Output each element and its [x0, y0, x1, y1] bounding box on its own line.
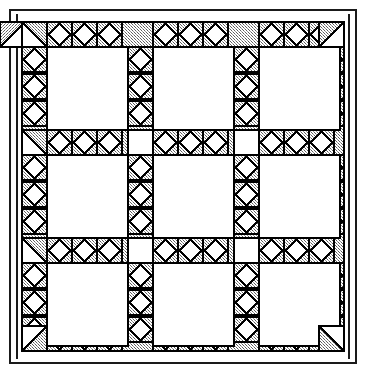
- quilt-pattern-figure: [0, 0, 366, 373]
- plain-block: [259, 155, 340, 238]
- sashing-band-top: [0, 22, 334, 47]
- plain-block: [47, 263, 128, 346]
- block-grid: [47, 47, 340, 346]
- corner-block-top-right: [319, 22, 344, 47]
- corner-block-top-left: [22, 22, 47, 47]
- sashing-band-row2: [22, 130, 334, 155]
- sashing-band-col1: [22, 47, 47, 342]
- plain-block: [153, 155, 234, 238]
- sashing-intersection-square: [128, 130, 153, 155]
- plain-block: [47, 47, 128, 130]
- plain-block: [153, 263, 234, 346]
- plain-block: [47, 155, 128, 238]
- corner-block-bottom-right: [319, 326, 344, 351]
- sashing-band-col3: [234, 47, 259, 342]
- plain-block: [153, 47, 234, 130]
- sashing-band-row3: [22, 238, 334, 263]
- sashing-intersection-square: [128, 238, 153, 263]
- sashing-intersection-square: [234, 238, 259, 263]
- sashing-intersection-square: [234, 130, 259, 155]
- quilt-diagram-root: [0, 0, 366, 373]
- plain-block: [259, 47, 340, 130]
- corner-block-bottom-left: [22, 326, 47, 351]
- sashing-band-col2: [128, 47, 153, 342]
